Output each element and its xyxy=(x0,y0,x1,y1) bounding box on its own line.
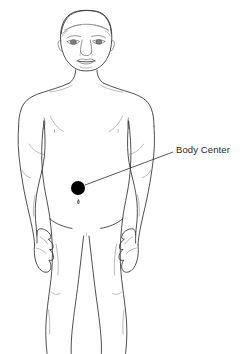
leg-right-shin xyxy=(123,310,124,334)
arm-left-elbow xyxy=(22,170,31,178)
hand-left-knuckle xyxy=(40,237,48,244)
arm-left-outer xyxy=(18,127,34,246)
torso-group xyxy=(42,116,131,236)
hand-right-knuckle xyxy=(125,237,133,244)
pectoral-left xyxy=(50,116,64,132)
torso-side-right xyxy=(123,121,131,219)
leg-left-shin xyxy=(49,310,50,334)
nostril-right xyxy=(91,53,92,55)
mouth-upper-lip xyxy=(77,59,95,61)
hand-right xyxy=(119,229,138,273)
navel-mark xyxy=(78,200,79,204)
hand-left-thumb xyxy=(36,248,46,253)
nose-bridge-right xyxy=(90,40,91,52)
hair-temple-right xyxy=(105,31,110,36)
arm-right-elbow xyxy=(142,170,151,178)
chin-crease xyxy=(80,67,92,68)
leg-left-thigh-crease xyxy=(56,244,58,275)
hip-line-left xyxy=(50,219,72,228)
arm-right-forearm-crease xyxy=(138,195,140,216)
hand-left xyxy=(34,229,53,273)
hand-right-thumb xyxy=(126,248,136,253)
knee-right xyxy=(113,292,122,294)
hairline xyxy=(61,11,111,34)
leg-left-inner xyxy=(71,236,83,354)
arm-left-forearm-crease xyxy=(33,195,35,216)
eye-iris-left xyxy=(70,40,76,45)
eye-iris-right xyxy=(96,40,102,45)
leg-right-group xyxy=(89,219,127,354)
arm-right-outer xyxy=(138,127,154,246)
arm-left-group xyxy=(18,121,54,272)
neck-right xyxy=(97,70,104,83)
leg-left-group xyxy=(46,219,84,354)
nose-tip xyxy=(81,52,92,55)
body-center-label: Body Center xyxy=(176,144,230,155)
torso-side-left xyxy=(42,121,50,219)
leg-right-inner xyxy=(89,236,101,354)
knee-left xyxy=(51,292,60,294)
pectoral-right xyxy=(109,116,123,132)
hip-line-right xyxy=(101,219,123,228)
head-group xyxy=(58,10,114,71)
human-figure-illustration xyxy=(0,0,242,354)
hair-strand-right xyxy=(95,25,109,31)
neck-shoulder-group xyxy=(19,70,154,127)
neck-left xyxy=(69,70,76,83)
hair-part-line xyxy=(63,24,109,33)
body-center-diagram: Body Center xyxy=(0,0,242,354)
nostril-left xyxy=(80,53,81,55)
eyebrow-right xyxy=(92,36,106,38)
nose-bridge-left xyxy=(81,40,83,52)
leg-right-thigh-crease xyxy=(114,244,116,275)
arm-right-group xyxy=(119,121,155,272)
body-center-callout xyxy=(71,152,173,195)
body-center-marker xyxy=(71,181,85,195)
eyebrow-left xyxy=(67,36,81,38)
mouth-line xyxy=(77,61,95,62)
